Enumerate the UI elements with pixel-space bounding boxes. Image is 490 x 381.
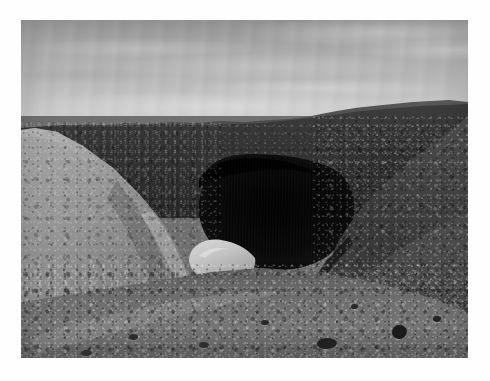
foreground-gravel-field xyxy=(21,258,468,358)
screenshot-root: desert quarry gorge with dark shadowed p… xyxy=(0,0,490,381)
photograph xyxy=(21,20,468,358)
foreground-stone-texture xyxy=(21,268,468,358)
